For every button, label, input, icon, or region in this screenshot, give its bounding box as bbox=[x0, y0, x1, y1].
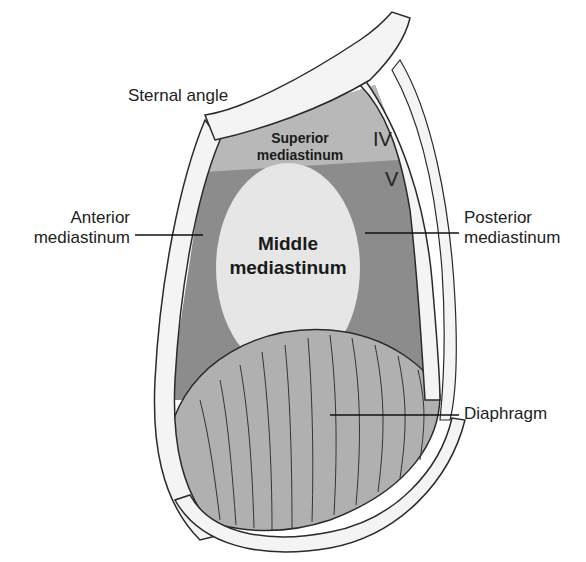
label-anterior-line2: mediastinum bbox=[20, 228, 130, 248]
label-superior-mediastinum: Superior mediastinum bbox=[245, 130, 355, 164]
label-anterior-line1: Anterior bbox=[20, 208, 130, 228]
label-posterior-line2: mediastinum bbox=[464, 228, 560, 248]
vertebra-label-iv: IV bbox=[373, 128, 392, 151]
label-posterior-line1: Posterior bbox=[464, 208, 560, 228]
label-posterior-mediastinum: Posterior mediastinum bbox=[464, 208, 560, 248]
vertebra-label-v: V bbox=[385, 168, 398, 191]
label-anterior-mediastinum: Anterior mediastinum bbox=[20, 208, 130, 248]
mediastinum-diagram bbox=[0, 0, 586, 562]
label-superior-line1: Superior bbox=[245, 130, 355, 147]
label-sternal-angle: Sternal angle bbox=[128, 86, 228, 106]
label-middle-mediastinum: Middle mediastinum bbox=[228, 232, 348, 280]
label-superior-line2: mediastinum bbox=[245, 147, 355, 164]
label-diaphragm: Diaphragm bbox=[464, 404, 547, 424]
label-middle-line2: mediastinum bbox=[228, 256, 348, 280]
label-middle-line1: Middle bbox=[228, 232, 348, 256]
